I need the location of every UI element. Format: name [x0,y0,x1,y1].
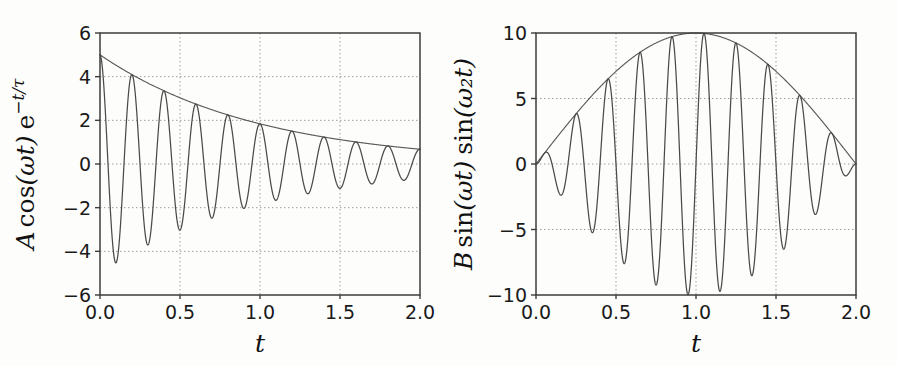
ytick-label: −4 [63,240,91,262]
svg-text:Acos(ωt)e−t/τ: Acos(ωt)e−t/τ [8,78,40,252]
xtick-label: 2.0 [841,301,871,323]
ytick-label: −10 [487,284,527,306]
xtick-label: 1.0 [681,301,711,323]
xtick-label: 0.5 [165,301,195,323]
ytick-label: 6 [79,22,91,44]
left-yaxis-label: Acos(ωt)e−t/τ [8,78,40,252]
ytick-label: 10 [503,22,527,44]
figure-two-panel-oscillation-plots: 0.00.51.01.52.0 −6−4−20246 t Acos(ωt)e−t… [0,0,897,366]
xtick-label: 1.0 [245,301,275,323]
left-ytick-labels: −6−4−20246 [63,22,91,306]
left-gridlines [100,33,420,295]
right-ytick-labels: −10−50510 [487,22,527,306]
right-yaxis-label: Bsin(ωt)sin(ω₂t) [449,58,478,271]
right-xaxis-label: t [691,329,702,358]
right-ylabel-omega2-t: (ω₂t) [449,58,478,118]
xtick-label: 2.0 [405,301,435,323]
right-ylabel-omega-t: (ωt) [449,161,478,211]
right-oscillation-curve [536,33,856,294]
right-ylabel-amplitude: B [449,252,478,271]
left-ylabel-exp: e [11,115,40,130]
ytick-label: −6 [63,284,91,306]
ytick-label: 4 [79,66,91,88]
left-xaxis-label: t [255,329,266,358]
xtick-label: 1.5 [325,301,355,323]
ytick-label: 5 [515,88,527,110]
xtick-label: 0.5 [601,301,631,323]
left-ylabel-omega-t: (ωt) [11,136,40,186]
right-ylabel-sin1: sin [449,211,478,248]
left-ylabel-cos: cos [11,186,40,228]
right-xtick-labels: 0.00.51.01.52.0 [521,301,871,323]
ytick-label: −5 [499,219,527,241]
left-ylabel-amplitude: A [11,231,40,251]
xtick-label: 1.5 [761,301,791,323]
ytick-label: 0 [515,153,527,175]
panel-damped-oscillation: 0.00.51.01.52.0 −6−4−20246 t Acos(ωt)e−t… [0,0,448,366]
panel-beat-oscillation: 0.00.51.01.52.0 −10−50510 t Bsin(ωt)sin(… [448,0,896,366]
right-plot-svg: 0.00.51.01.52.0 −10−50510 t Bsin(ωt)sin(… [448,0,897,366]
left-ylabel-exp-sup: −t/τ [8,78,28,115]
left-plot-svg: 0.00.51.01.52.0 −6−4−20246 t Acos(ωt)e−t… [0,0,448,366]
left-tickmarks [95,33,420,299]
svg-text:Bsin(ωt)sin(ω₂t): Bsin(ωt)sin(ω₂t) [449,58,478,271]
ytick-label: −2 [63,197,91,219]
right-tickmarks [531,33,856,299]
ytick-label: 0 [79,153,91,175]
right-ylabel-sin2: sin [449,118,478,155]
ytick-label: 2 [79,109,91,131]
left-xtick-labels: 0.00.51.01.52.0 [85,301,435,323]
